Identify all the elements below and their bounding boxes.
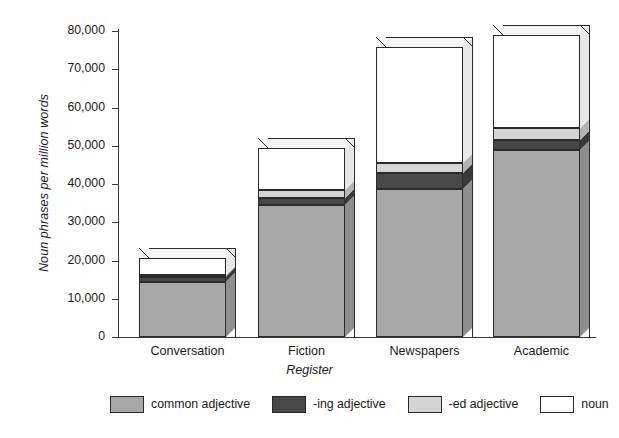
bar-segment [139,282,226,337]
y-tick-label: 40,000 [15,176,105,190]
chart-legend: common adjective-ing adjective-ed adject… [110,391,530,417]
y-tick [112,261,119,262]
bar-segment [376,189,463,337]
bar-segment [376,173,463,189]
y-tick-label: 30,000 [15,214,105,228]
bar-segment [493,150,580,337]
y-tick-label: 0 [15,329,105,343]
y-tick [112,108,119,109]
bar-top-right-edge [580,25,590,35]
legend-swatch [110,396,144,413]
legend-swatch [408,396,442,413]
y-tick-label: 80,000 [15,23,105,37]
legend-swatch [272,396,306,413]
bar-group [258,0,355,340]
bar-top-face [493,25,590,35]
bar-segment [258,205,345,337]
bar-segment [258,190,345,198]
legend-label: noun [581,397,608,411]
x-axis-title: Register [0,363,619,377]
y-tick-label: 20,000 [15,253,105,267]
bar-segment-side-outline [345,195,355,337]
bar-top-left-edge [493,25,503,35]
y-tick [112,222,119,223]
bar-segment [139,277,226,282]
y-tick [112,337,119,338]
y-tick-label: 60,000 [15,100,105,114]
bar-segment [139,275,226,277]
legend-item: -ing adjective [272,396,385,413]
bar-segment [376,47,463,163]
bar-top-back-edge [268,138,355,139]
bar-top-left-edge [139,248,149,258]
bar-segment [258,148,345,190]
x-category-label: Academic [468,344,615,358]
bar-group [139,0,236,340]
y-tick [112,69,119,70]
bar-top-right-edge [463,37,473,47]
legend-item: -ed adjective [408,396,519,413]
bar-top-right-edge [345,138,355,148]
bar-top-back-edge [149,248,236,249]
bar-segment [493,140,580,150]
bar-segment-side-outline [580,140,590,337]
y-tick-label: 10,000 [15,291,105,305]
bar-segment-side-outline [463,179,473,337]
legend-label: -ed adjective [449,397,519,411]
legend-swatch [540,396,574,413]
bar-top-left-edge [376,37,386,47]
bar-top-face [258,138,355,148]
bar-segment [258,198,345,205]
legend-label: -ing adjective [313,397,385,411]
bar-group [493,0,590,340]
y-tick [112,184,119,185]
legend-item: common adjective [110,396,250,413]
bar-segment [139,258,226,275]
bar-top-face [376,37,473,47]
bar-chart: Noun phrases per million words 010,00020… [0,0,619,438]
bar-segment [493,35,580,128]
bar-segment-side-outline [580,25,590,128]
bar-top-face [139,248,236,258]
y-tick-label: 50,000 [15,138,105,152]
bar-segment-side-outline [463,37,473,163]
y-tick [112,299,119,300]
legend-label: common adjective [151,397,250,411]
bar-top-right-edge [226,248,236,258]
legend-item: noun [540,396,608,413]
bar-segment [376,163,463,173]
bar-top-back-edge [386,37,473,38]
bar-top-back-edge [503,25,590,26]
bar-top-left-edge [258,138,268,148]
y-tick [112,31,119,32]
bar-segment [493,128,580,140]
y-tick [112,146,119,147]
y-tick-label: 70,000 [15,61,105,75]
bar-group [376,0,473,340]
